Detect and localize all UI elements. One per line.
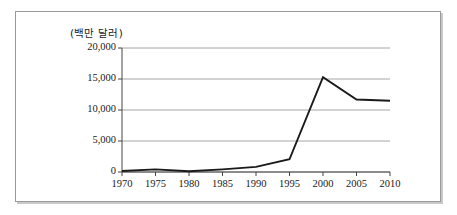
chart-figure: (백만 달러) 05,00010,00015,00020,000 1970197… (0, 0, 457, 215)
y-tick-label: 0 (70, 165, 116, 176)
y-tick-label: 5,000 (70, 134, 116, 145)
x-axis-ticks (122, 172, 390, 176)
y-axis-ticks (118, 48, 122, 172)
x-tick-label: 2010 (370, 178, 410, 189)
gridlines (122, 48, 390, 172)
y-tick-label: 10,000 (70, 103, 116, 114)
y-tick-label: 20,000 (70, 41, 116, 52)
y-tick-label: 15,000 (70, 72, 116, 83)
data-series-line (122, 77, 390, 171)
